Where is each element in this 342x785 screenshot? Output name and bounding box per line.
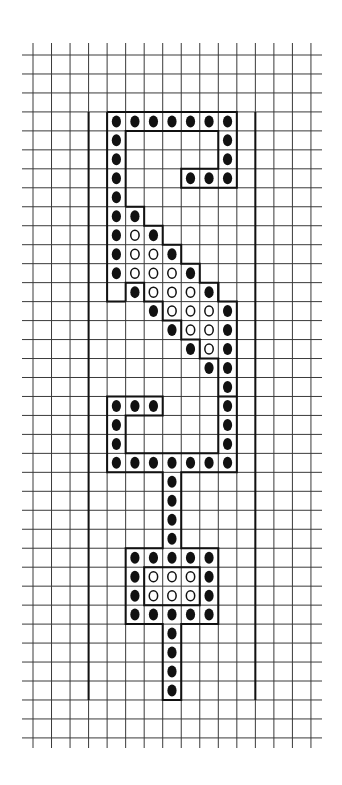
filled-dot-icon: [223, 438, 232, 450]
filled-dot-icon: [204, 286, 213, 298]
filled-dot-icon: [204, 115, 213, 127]
filled-dot-icon: [167, 552, 176, 564]
open-circle-icon: [131, 268, 139, 278]
filled-dot-icon: [223, 343, 232, 355]
open-circle-icon: [149, 268, 157, 278]
filled-dot-icon: [186, 115, 195, 127]
filled-dot-icon: [223, 400, 232, 412]
filled-dot-icon: [149, 457, 158, 469]
filled-dot-icon: [149, 400, 158, 412]
filled-dot-icon: [167, 324, 176, 336]
filled-dot-icon: [167, 476, 176, 488]
filled-dot-icon: [167, 684, 176, 696]
filled-dot-icon: [186, 552, 195, 564]
filled-dot-icon: [223, 457, 232, 469]
filled-dot-stitches: [112, 115, 232, 696]
filled-dot-icon: [149, 229, 158, 241]
filled-dot-icon: [112, 248, 121, 260]
filled-dot-icon: [204, 457, 213, 469]
filled-dot-icon: [112, 191, 121, 203]
open-circle-icon: [168, 591, 176, 601]
filled-dot-icon: [112, 115, 121, 127]
open-circle-icon: [205, 306, 213, 316]
open-circle-icon: [205, 344, 213, 354]
filled-dot-icon: [149, 609, 158, 621]
filled-dot-icon: [112, 438, 121, 450]
filled-dot-icon: [112, 210, 121, 222]
filled-dot-icon: [167, 457, 176, 469]
filled-dot-icon: [186, 457, 195, 469]
filled-dot-icon: [223, 115, 232, 127]
filled-dot-icon: [223, 172, 232, 184]
filled-dot-icon: [167, 666, 176, 678]
open-circle-icon: [186, 287, 194, 297]
filled-dot-icon: [204, 552, 213, 564]
filled-dot-icon: [204, 571, 213, 583]
filled-dot-icon: [130, 609, 139, 621]
filled-dot-icon: [167, 647, 176, 659]
filled-dot-icon: [112, 267, 121, 279]
filled-dot-icon: [223, 381, 232, 393]
open-circle-icon: [186, 591, 194, 601]
open-circle-icon: [149, 572, 157, 582]
filled-dot-icon: [130, 571, 139, 583]
open-circle-icon: [168, 306, 176, 316]
open-circle-icon: [205, 325, 213, 335]
filled-dot-icon: [167, 628, 176, 640]
filled-dot-icon: [223, 362, 232, 374]
filled-dot-icon: [223, 305, 232, 317]
filled-dot-icon: [130, 286, 139, 298]
filled-dot-icon: [112, 172, 121, 184]
filled-dot-icon: [149, 305, 158, 317]
open-circle-icon: [149, 249, 157, 259]
open-circle-icon: [149, 287, 157, 297]
filled-dot-icon: [167, 609, 176, 621]
filled-dot-icon: [204, 609, 213, 621]
filled-dot-icon: [223, 419, 232, 431]
filled-dot-icon: [186, 609, 195, 621]
filled-dot-icon: [130, 400, 139, 412]
filled-dot-icon: [112, 400, 121, 412]
filled-dot-icon: [112, 229, 121, 241]
filled-dot-icon: [112, 419, 121, 431]
filled-dot-icon: [167, 115, 176, 127]
filled-dot-icon: [167, 533, 176, 545]
open-circle-icon: [186, 572, 194, 582]
grid-lines: [22, 43, 322, 748]
open-circle-icon: [131, 249, 139, 259]
filled-dot-icon: [186, 172, 195, 184]
filled-dot-icon: [130, 552, 139, 564]
open-circle-icon: [168, 572, 176, 582]
open-circle-icon: [168, 287, 176, 297]
filled-dot-icon: [186, 267, 195, 279]
filled-dot-icon: [112, 134, 121, 146]
filled-dot-icon: [149, 552, 158, 564]
filled-dot-icon: [167, 248, 176, 260]
open-circle-icon: [149, 591, 157, 601]
filled-dot-icon: [130, 115, 139, 127]
open-circle-icon: [168, 268, 176, 278]
pattern-chart: [0, 0, 342, 785]
filled-dot-icon: [112, 153, 121, 165]
filled-dot-icon: [223, 153, 232, 165]
filled-dot-icon: [130, 457, 139, 469]
filled-dot-icon: [130, 590, 139, 602]
filled-dot-icon: [204, 172, 213, 184]
filled-dot-icon: [223, 134, 232, 146]
open-circle-icon: [186, 325, 194, 335]
filled-dot-icon: [204, 590, 213, 602]
open-circle-icon: [131, 230, 139, 240]
filled-dot-icon: [112, 457, 121, 469]
filled-dot-icon: [167, 514, 176, 526]
filled-dot-icon: [204, 362, 213, 374]
filled-dot-icon: [186, 343, 195, 355]
filled-dot-icon: [149, 115, 158, 127]
open-circle-icon: [186, 306, 194, 316]
filled-dot-icon: [130, 210, 139, 222]
filled-dot-icon: [167, 495, 176, 507]
filled-dot-icon: [223, 324, 232, 336]
